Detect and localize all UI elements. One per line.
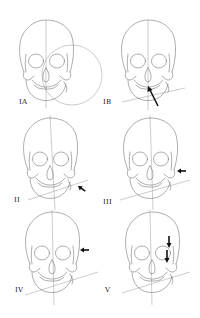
panel-ii: II xyxy=(14,115,88,210)
construction-circle xyxy=(42,45,102,105)
arrow-icon xyxy=(177,168,186,173)
panel-label-v: V xyxy=(104,286,111,294)
panel-label-ia: IA xyxy=(19,98,28,106)
arrow-icon xyxy=(77,184,87,193)
skull-drawing xyxy=(126,212,180,293)
panel-label-iv: IV xyxy=(15,286,24,294)
panel-label-ib: IB xyxy=(103,98,111,106)
skull-drawing xyxy=(24,118,78,199)
panel-label-iii: III xyxy=(103,198,112,206)
midline-guide xyxy=(150,210,152,305)
arrow-icon xyxy=(167,236,172,248)
tilted-guide xyxy=(25,272,98,295)
panel-ia: IA xyxy=(19,20,102,108)
midline-guide xyxy=(150,115,153,210)
panel-iv: IV xyxy=(15,210,98,305)
midline-guide xyxy=(52,210,54,305)
panel-label-ii: II xyxy=(14,196,20,204)
skull-drawing xyxy=(20,20,74,101)
panel-ib: IB xyxy=(103,20,185,110)
skull-diagram-figure: IA IB II III IV xyxy=(0,0,200,318)
panel-iii: III xyxy=(103,115,190,210)
arrow-icon xyxy=(165,250,170,263)
panel-v: V xyxy=(104,210,190,305)
arrow-icon xyxy=(80,247,89,252)
